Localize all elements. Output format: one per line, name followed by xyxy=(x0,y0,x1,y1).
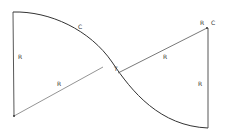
left-diagonal-radius-line xyxy=(14,67,103,116)
label-left-vertical-radius: R xyxy=(18,53,22,60)
label-right-corner-r: R xyxy=(200,19,204,26)
label-right-vertical-radius: R xyxy=(198,80,202,87)
right-diagonal-radius-line xyxy=(118,28,207,73)
left-center-point xyxy=(13,115,15,117)
lower-curve-arc xyxy=(112,62,208,128)
label-right-corner-c: C xyxy=(211,19,215,26)
label-right-diagonal-radius: R xyxy=(163,53,167,60)
reverse-curve-diagram: C R R T R R C R xyxy=(0,0,226,138)
right-center-point xyxy=(206,27,208,29)
upper-curve-arc xyxy=(13,12,112,62)
label-upper-curve: C xyxy=(78,23,82,30)
left-vertical-radius-line xyxy=(13,12,14,116)
label-left-diagonal-radius: R xyxy=(57,80,61,87)
label-tangent-point: T xyxy=(113,65,118,72)
